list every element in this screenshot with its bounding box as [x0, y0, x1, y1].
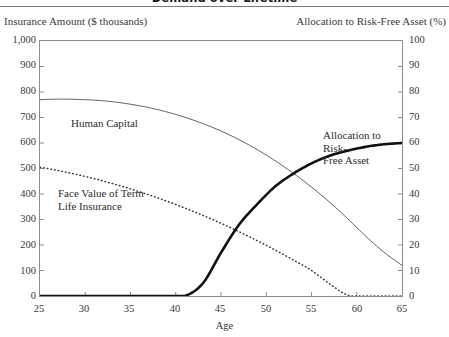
y-right-tick-40: 40: [409, 188, 420, 199]
y-right-tick-20: 20: [409, 239, 420, 250]
chart-title: Demand over Lifetime: [0, 0, 449, 5]
y-right-tick-90: 90: [409, 59, 420, 70]
plot-area: Human Capital Face Value of Term Life In…: [39, 40, 403, 297]
tick-marks-right: [398, 67, 402, 271]
x-tick-40: 40: [160, 303, 190, 314]
x-tick-55: 55: [296, 303, 326, 314]
x-tick-30: 30: [69, 303, 99, 314]
x-axis-title: Age: [0, 320, 449, 331]
series-canvas: [40, 41, 402, 296]
y-left-tick-1000: 1,000: [12, 34, 36, 45]
y-left-tick-0: 0: [31, 290, 36, 301]
y-left-tick-200: 200: [20, 239, 36, 250]
title-divider: [0, 6, 449, 7]
y-right-tick-0: 0: [409, 290, 414, 301]
y-left-tick-700: 700: [20, 111, 36, 122]
x-tick-35: 35: [114, 303, 144, 314]
y-right-tick-80: 80: [409, 85, 420, 96]
y-left-tick-300: 300: [20, 213, 36, 224]
y-left-tick-400: 400: [20, 188, 36, 199]
y-right-tick-100: 100: [409, 34, 425, 45]
y-left-tick-800: 800: [20, 85, 36, 96]
left-axis-title: Insurance Amount ($ thousands): [4, 15, 147, 27]
y-left-tick-500: 500: [20, 162, 36, 173]
annotation-face-value: Face Value of Term Life Insurance: [58, 187, 144, 212]
y-left-tick-600: 600: [20, 136, 36, 147]
x-tick-50: 50: [251, 303, 281, 314]
y-left-tick-100: 100: [20, 265, 36, 276]
y-right-tick-10: 10: [409, 265, 420, 276]
right-axis-title: Allocation to Risk-Free Asset (%): [296, 15, 446, 27]
y-right-tick-70: 70: [409, 111, 420, 122]
y-right-tick-50: 50: [409, 162, 420, 173]
x-tick-65: 65: [387, 303, 417, 314]
x-tick-25: 25: [24, 303, 54, 314]
y-left-tick-900: 900: [20, 59, 36, 70]
annotation-human-capital: Human Capital: [71, 117, 138, 130]
x-tick-45: 45: [205, 303, 235, 314]
annotation-allocation: Allocation to Risk- Free Asset: [323, 129, 402, 167]
chart-figure: Demand over Lifetime Insurance Amount ($…: [0, 0, 449, 337]
y-right-tick-30: 30: [409, 213, 420, 224]
y-right-tick-60: 60: [409, 136, 420, 147]
x-tick-60: 60: [342, 303, 372, 314]
